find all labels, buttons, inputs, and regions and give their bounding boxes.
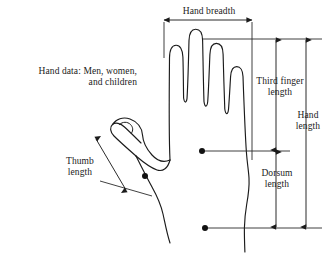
wrist-point-dot: [202, 225, 208, 231]
thumb-base-point-dot: [142, 173, 148, 179]
hand-left-contour: [136, 156, 170, 171]
knuckle-point-dot: [199, 148, 205, 154]
figure-drawing: [0, 0, 330, 259]
hand-outline-group: [111, 29, 250, 252]
hand-length-label: Hand length: [288, 110, 328, 132]
hand-anthropometry-figure: Hand data: Men, women, and children Hand…: [0, 0, 330, 259]
thumb-length-label: Thumb length: [56, 156, 104, 178]
dimension-arrows-group: [96, 20, 306, 227]
hand-outline-path: [169, 29, 249, 252]
dorsum-length-label: Dorsum length: [253, 168, 301, 190]
figure-caption: Hand data: Men, women, and children: [9, 66, 137, 88]
thumb-outer-edge: [111, 123, 141, 156]
thumb-base-line: [100, 181, 152, 196]
third-finger-length-label: Third finger length: [253, 76, 307, 98]
thumbnail-crease: [120, 122, 133, 133]
hand-breadth-label: Hand breadth: [166, 6, 252, 17]
